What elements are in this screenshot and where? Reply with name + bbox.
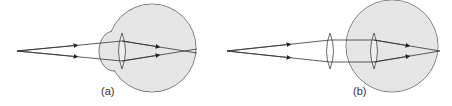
eyeball-b <box>346 0 438 92</box>
panel-b-label: (b) <box>353 85 366 97</box>
eyeball-a <box>99 4 196 92</box>
eye-optics-diagram <box>0 0 452 106</box>
panel-a <box>17 4 197 92</box>
corrective-lens <box>327 33 334 69</box>
panel-a-label: (a) <box>101 85 114 97</box>
panel-b <box>227 0 440 92</box>
